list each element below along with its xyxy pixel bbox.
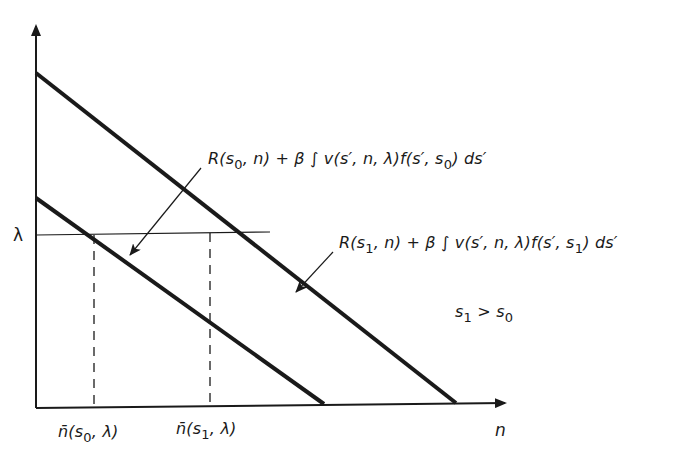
x-tick-s0: n̄(s0, λ) [58, 422, 119, 441]
cond-op: > [472, 302, 496, 321]
s0-label-end: ) ds′ [452, 149, 486, 168]
s1-label-sub1: 1 [365, 241, 373, 256]
pointer-arrow-s1 [296, 252, 333, 292]
s0-label-mid: , n) + β ∫ v(s′, n, λ)f(s′, s [243, 149, 444, 168]
curve-s0-label: R(s0, n) + β ∫ v(s′, n, λ)f(s′, s0) ds′ [208, 149, 487, 168]
s0-label-R: R(s [208, 149, 234, 168]
tick-s0-prefix: n̄(s [58, 422, 83, 441]
cond-b: s [496, 302, 505, 321]
tick-s0-sub: 0 [83, 430, 91, 445]
condition-label: s1 > s0 [455, 302, 513, 321]
lambda-symbol: λ [13, 225, 23, 245]
s1-label-mid: , n) + β ∫ v(s′, n, λ)f(s′, s [374, 233, 575, 252]
cond-a: s [455, 302, 464, 321]
x-axis-label: n [495, 420, 506, 440]
tick-s1-prefix: n̄(s [176, 419, 201, 438]
s1-label-sub2: 1 [575, 241, 583, 256]
cond-b-sub: 0 [505, 310, 513, 325]
x-tick-s1: n̄(s1, λ) [176, 419, 237, 438]
s0-label-sub1: 0 [234, 157, 242, 172]
curve-s0 [36, 198, 324, 404]
x-axis [36, 403, 505, 408]
lambda-axis-label: λ [13, 225, 23, 245]
tick-s1-sub: 1 [201, 427, 209, 442]
tick-s1-suffix: , λ) [210, 419, 237, 438]
x-axis-label-text: n [495, 420, 506, 440]
s1-label-end: ) ds′ [583, 233, 617, 252]
diagram-figure: λ R(s0, n) + β ∫ v(s′, n, λ)f(s′, s0) ds… [0, 0, 678, 465]
s0-label-sub2: 0 [444, 157, 452, 172]
s1-label-R: R(s [339, 233, 365, 252]
tick-s0-suffix: , λ) [92, 422, 119, 441]
cond-a-sub: 1 [464, 310, 472, 325]
lambda-level-line [36, 232, 270, 235]
curve-s1-label: R(s1, n) + β ∫ v(s′, n, λ)f(s′, s1) ds′ [339, 233, 618, 252]
pointer-arrow-s0 [130, 168, 201, 255]
